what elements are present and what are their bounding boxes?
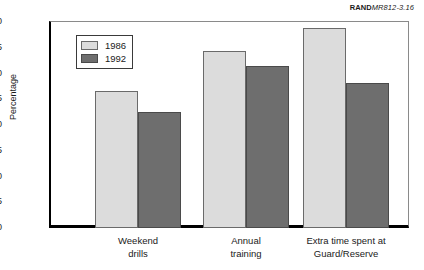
legend-label-1992: 1992 xyxy=(105,54,126,64)
bar xyxy=(303,28,346,228)
bar xyxy=(138,112,181,228)
y-tick-label: 10 xyxy=(0,172,2,181)
y-tick-label: 5 xyxy=(0,197,2,206)
y-tick-label: 30 xyxy=(0,69,2,78)
legend-item[interactable]: 1986 xyxy=(81,39,126,52)
y-tick-label: 35 xyxy=(0,43,2,52)
y-tick-label: 20 xyxy=(0,120,2,129)
y-tick-label: 25 xyxy=(0,94,2,103)
rand-logo-text: RAND xyxy=(350,3,372,12)
y-tick-label: 40 xyxy=(0,17,2,26)
rand-source-credit: RANDMR812-3.16 xyxy=(350,3,414,12)
bar xyxy=(346,83,389,228)
bar xyxy=(246,66,289,228)
bar xyxy=(203,51,246,228)
y-tick-label: 0 xyxy=(0,223,2,232)
y-axis-title: Percentage xyxy=(8,37,18,157)
chart-figure: RANDMR812-3.16 Percentage 05101520253035… xyxy=(0,0,424,270)
legend-swatch-1986 xyxy=(81,41,98,50)
legend-swatch-1992 xyxy=(81,54,98,63)
y-tick-label: 15 xyxy=(0,146,2,155)
legend-item[interactable]: 1992 xyxy=(81,52,126,65)
chart-legend: 1986 1992 xyxy=(76,35,133,69)
x-axis-category-label: Extra time spent at Guard/Reserve xyxy=(276,234,416,260)
legend-label-1986: 1986 xyxy=(105,41,126,51)
bar xyxy=(95,91,138,228)
document-number: MR812-3.16 xyxy=(372,3,414,12)
